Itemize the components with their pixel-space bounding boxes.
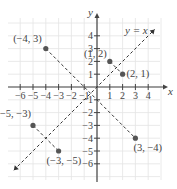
data-point	[56, 148, 61, 153]
point-label: (−3, −5)	[47, 155, 82, 167]
y-axis-label: y	[87, 6, 93, 18]
coordinate-plane: −6−5−4−3−2−112344321−1−2−3−4−5−6 (−4, 3)…	[0, 0, 177, 189]
y-axis-arrow-icon	[95, 13, 100, 18]
x-tick-label: 3	[133, 90, 138, 101]
y-tick-label: −1	[82, 94, 93, 105]
point-label: (1, 2)	[84, 48, 107, 60]
x-tick-label: 4	[146, 90, 151, 101]
point-label: (−5, −3)	[0, 108, 31, 120]
y-tick-label: −3	[82, 120, 93, 131]
y-tick-label: −6	[82, 158, 93, 169]
y-tick-label: −2	[82, 107, 93, 118]
x-tick-label: −3	[53, 90, 64, 101]
point-label: (2, 1)	[127, 68, 150, 80]
data-point	[133, 136, 138, 141]
data-point	[120, 72, 125, 77]
y-tick-label: −5	[82, 146, 93, 157]
point-label: (−4, 3)	[13, 33, 42, 45]
y-tick-label: 4	[88, 30, 93, 41]
x-tick-label: 2	[120, 90, 125, 101]
x-tick-label: −2	[66, 90, 77, 101]
line-label-y-equals-x: y = x	[124, 24, 148, 36]
data-point	[43, 46, 48, 51]
data-point	[30, 123, 35, 128]
x-tick-label: −4	[40, 90, 51, 101]
data-point	[107, 59, 112, 64]
point-label: (3, −4)	[133, 142, 162, 154]
x-axis-label: x	[167, 85, 173, 97]
x-tick-label: 1	[107, 90, 112, 101]
y-tick-label: −4	[82, 133, 93, 144]
x-tick-label: −5	[28, 90, 39, 101]
x-tick-label: −6	[15, 90, 26, 101]
y-tick-label: 1	[88, 69, 93, 80]
